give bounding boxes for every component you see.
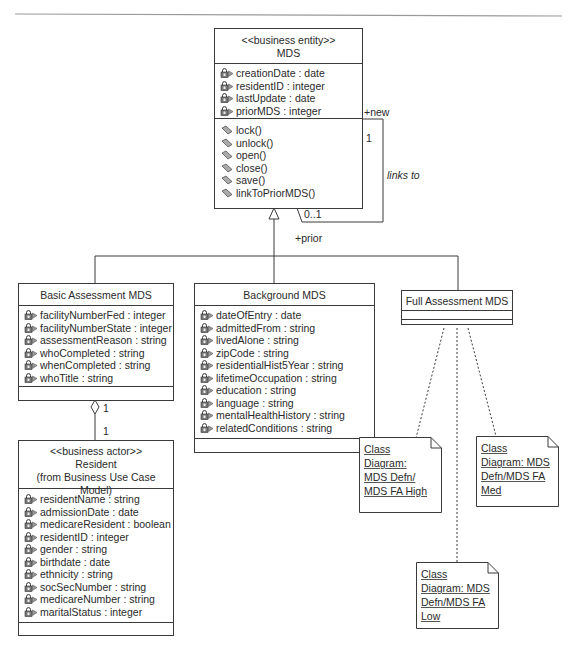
padlock-attribute-icon — [24, 323, 38, 333]
attribute-row: maritalStatus : integer — [24, 606, 173, 619]
attribute-row: medicareResident : boolean — [24, 518, 173, 531]
operation-row: unlock() — [220, 137, 362, 150]
operation-row: save() — [220, 174, 362, 187]
padlock-attribute-icon — [200, 348, 214, 358]
padlock-attribute-icon — [24, 335, 38, 345]
note-line: Class — [421, 567, 495, 581]
padlock-attribute-icon — [24, 494, 38, 504]
padlock-attribute-icon — [200, 373, 214, 383]
attributes-compartment: dateOfEntry : date admittedFrom : string… — [195, 306, 374, 439]
aggregation-multiplicity-bottom: 1 — [103, 425, 109, 437]
aggregation-multiplicity-top: 1 — [103, 402, 109, 414]
padlock-attribute-icon — [220, 93, 234, 103]
padlock-attribute-icon — [24, 594, 38, 604]
note-class-diagram-fa-low[interactable]: Class Diagram: MDS Defn/MDS FA Low — [416, 562, 499, 629]
class-resident[interactable]: <<business actor>> Resident (from Busine… — [18, 440, 174, 636]
attribute-row: facilityNumberFed : integer — [24, 309, 173, 322]
attribute-row: ethnicity : string — [24, 568, 173, 581]
note-class-diagram-fa-med[interactable]: Class Diagram: MDS Defn/MDS FA Med — [476, 436, 559, 507]
attribute-row: residentialHist5Year : string — [200, 359, 374, 372]
attribute-row: zipCode : string — [200, 347, 374, 360]
attribute-row: education : string — [200, 384, 374, 397]
padlock-attribute-icon — [24, 373, 38, 383]
note-line: Low — [421, 609, 495, 623]
class-full-assessment-mds[interactable]: Full Assessment MDS — [401, 290, 513, 325]
aggregation-diamond — [91, 400, 99, 414]
multiplicity-new-label: 1 — [366, 132, 372, 144]
attribute-row: residentID : integer — [24, 531, 173, 544]
role-new-label: +new — [364, 106, 389, 118]
class-basic-assessment-mds[interactable]: Basic Assessment MDS facilityNumberFed :… — [18, 283, 174, 401]
class-header: <<business actor>> Resident (from Busine… — [19, 441, 173, 489]
operation-row: linkToPriorMDS() — [220, 187, 362, 200]
attribute-row: whoTitle : string — [24, 372, 173, 385]
attribute-row: medicareNumber : string — [24, 593, 173, 606]
note-class-diagram-fa-high[interactable]: Class Diagram: MDS Defn/ MDS FA High — [359, 437, 442, 513]
operation-row: close() — [220, 162, 362, 175]
padlock-attribute-icon — [200, 398, 214, 408]
attribute-row: priorMDS : integer — [220, 105, 362, 118]
note-line: Class — [481, 441, 555, 455]
padlock-attribute-icon — [200, 323, 214, 333]
padlock-attribute-icon — [24, 607, 38, 617]
attribute-row: admittedFrom : string — [200, 322, 374, 335]
attributes-compartment: creationDate : date residentID : integer… — [215, 64, 362, 119]
operation-diamond-icon — [220, 138, 234, 148]
padlock-attribute-icon — [200, 385, 214, 395]
note-line: Diagram: — [364, 456, 438, 470]
operation-diamond-icon — [220, 150, 234, 160]
stereotype: <<business entity>> — [217, 34, 360, 47]
operation-diamond-icon — [220, 163, 234, 173]
padlock-attribute-icon — [24, 348, 38, 358]
association-name-label: links to — [387, 169, 420, 181]
padlock-attribute-icon — [24, 360, 38, 370]
operation-diamond-icon — [220, 125, 234, 135]
attribute-row: language : string — [200, 397, 374, 410]
class-name: MDS — [217, 47, 360, 60]
operations-compartment — [19, 623, 173, 628]
note-line: Class — [364, 442, 438, 456]
note-line: MDS Defn/ — [364, 470, 438, 484]
attributes-compartment: residentName : string admissionDate : da… — [19, 489, 173, 623]
note-anchor-med — [468, 328, 496, 436]
note-line: Diagram: MDS — [481, 455, 555, 469]
class-mds[interactable]: <<business entity>> MDS creationDate : d… — [214, 28, 363, 209]
padlock-attribute-icon — [220, 68, 234, 78]
attribute-row: dateOfEntry : date — [200, 309, 374, 322]
multiplicity-prior-label: 0..1 — [304, 208, 322, 220]
operations-compartment — [195, 439, 374, 444]
operation-row: open() — [220, 149, 362, 162]
padlock-attribute-icon — [24, 557, 38, 567]
class-name: Resident — [21, 458, 171, 471]
padlock-attribute-icon — [24, 507, 38, 517]
operation-diamond-icon — [220, 175, 234, 185]
class-header: Full Assessment MDS — [402, 291, 512, 311]
padlock-attribute-icon — [24, 544, 38, 554]
stereotype: <<business actor>> — [21, 445, 171, 458]
note-line: Diagram: MDS — [421, 581, 495, 595]
padlock-attribute-icon — [220, 106, 234, 116]
attribute-row: assessmentReason : string — [24, 334, 173, 347]
padlock-attribute-icon — [24, 310, 38, 320]
note-line: Defn/MDS FA — [481, 469, 555, 483]
operation-diamond-icon — [220, 188, 234, 198]
generalization-arrowhead — [269, 208, 279, 219]
operation-row: lock() — [220, 124, 362, 137]
attribute-row: residentID : integer — [220, 80, 362, 93]
attribute-row: residentName : string — [24, 493, 173, 506]
attribute-row: livedAlone : string — [200, 334, 374, 347]
class-header: <<business entity>> MDS — [215, 29, 362, 64]
top-rule — [15, 14, 562, 16]
padlock-attribute-icon — [200, 335, 214, 345]
attribute-row: gender : string — [24, 543, 173, 556]
attribute-row: whoCompleted : string — [24, 347, 173, 360]
class-header: Basic Assessment MDS — [19, 284, 173, 306]
attribute-row: socSecNumber : string — [24, 581, 173, 594]
note-line: Med — [481, 483, 555, 497]
padlock-attribute-icon — [200, 360, 214, 370]
attribute-row: creationDate : date — [220, 67, 362, 80]
class-background-mds[interactable]: Background MDS dateOfEntry : date admitt… — [194, 283, 375, 453]
attribute-row: facilityNumberState : integer — [24, 322, 173, 335]
operations-compartment — [19, 387, 173, 392]
attribute-row: whenCompleted : string — [24, 359, 173, 372]
